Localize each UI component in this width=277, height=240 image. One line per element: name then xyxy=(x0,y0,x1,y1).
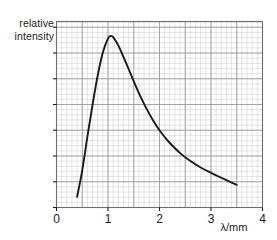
plot-canvas: 01234 λ/mm xyxy=(0,0,277,240)
x-axis-title: λ/mm xyxy=(221,221,248,233)
x-tick-label: 0 xyxy=(53,212,60,226)
x-tick-label: 2 xyxy=(156,212,163,226)
x-tick-label: 3 xyxy=(208,212,215,226)
chart-figure: relative intensity 01234 λ/mm xyxy=(0,0,277,240)
x-tick-label: 1 xyxy=(105,212,112,226)
x-tick-label: 4 xyxy=(259,212,266,226)
spectrum-curve xyxy=(77,36,237,197)
